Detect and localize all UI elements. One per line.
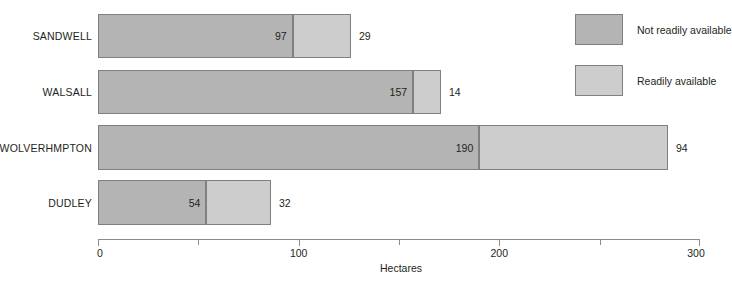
legend-label: Readily available [637,75,716,86]
bar-value-label: 32 [279,197,291,208]
category-label-wolverhmpton: WOLVERHMPTON [0,143,92,154]
legend-item-readily-available: Readily available [575,65,725,96]
bar-value-label: 29 [359,31,371,42]
axis-tick [499,239,500,246]
axis-tick-label: 300 [687,248,705,259]
legend-label: Not readily available [637,24,732,35]
axis-tick [399,239,400,245]
category-label-dudley: DUDLEY [48,198,92,209]
axis-tick [198,239,199,245]
bar-segment-not-readily-available: 54 [98,180,206,225]
bar-row: 54 32 [98,180,700,225]
bar-segment-not-readily-available: 97 [98,14,293,58]
bar-value-label: 97 [275,31,287,42]
axis-tick-label: 0 [97,248,103,259]
bar-value-label: 190 [456,142,474,153]
bar-value-label: 14 [449,87,461,98]
legend-swatch-icon [575,14,623,45]
axis-tick [299,239,300,246]
bar-segment-not-readily-available: 157 [98,70,413,114]
axis-tick [98,239,99,246]
bar-value-label: 54 [189,197,201,208]
legend-item-not-readily-available: Not readily available [575,14,725,45]
category-label-sandwell: SANDWELL [33,31,92,42]
bar-value-label: 94 [676,142,688,153]
bar-segment-readily-available [293,14,351,58]
axis-tick [600,239,601,245]
axis-tick-label: 100 [290,248,308,259]
axis-tick-label: 200 [491,248,509,259]
axis-tick [699,239,700,246]
bar-value-label: 157 [390,87,408,98]
axis-title: Hectares [380,263,422,274]
legend-swatch-icon [575,65,623,96]
bar-segment-not-readily-available: 190 [98,125,479,170]
bar-segment-readily-available [206,180,270,225]
bar-segment-readily-available [413,70,441,114]
bar-segment-readily-available [479,125,668,170]
category-label-walsall: WALSALL [43,87,92,98]
bar-row: 190 94 [98,125,700,170]
